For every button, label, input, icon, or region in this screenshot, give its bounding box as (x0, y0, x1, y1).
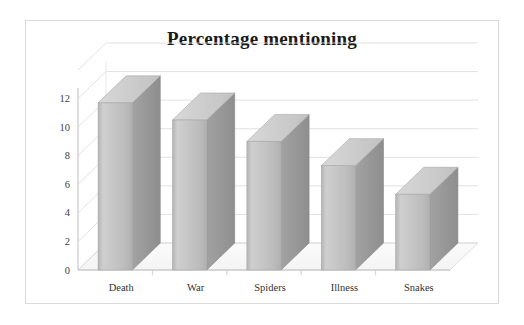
bar-front-face (98, 103, 132, 270)
x-category-label: Snakes (404, 282, 434, 293)
bar-front-face (247, 141, 281, 270)
y-tick-label: 4 (65, 207, 71, 218)
chart-x-tick-marks (152, 270, 375, 275)
x-category-label: Spiders (254, 282, 286, 293)
bar-death[interactable] (98, 76, 160, 270)
bar-front-face (321, 166, 355, 270)
bar-front-face (396, 194, 430, 270)
y-tick-label: 6 (65, 179, 70, 190)
bar-war[interactable] (172, 93, 234, 270)
depth-connector (78, 72, 106, 99)
chart-y-tick-labels: 121086420 (60, 93, 71, 275)
y-tick-label: 10 (60, 122, 71, 133)
x-category-label: Illness (331, 282, 358, 293)
chart-bars-group (98, 76, 458, 270)
chart-x-category-labels: SnakesIllnessSpidersWarDeath (109, 282, 434, 293)
chart-container: Percentage mentioning (0, 0, 524, 325)
depth-connector (78, 43, 106, 70)
chart-plot-area: 121086420 SnakesIllnessSpidersWarDeath (0, 0, 524, 325)
y-tick-label: 2 (65, 236, 70, 247)
bar-spiders[interactable] (247, 114, 309, 270)
y-tick-label: 0 (65, 265, 70, 276)
x-category-label: War (187, 282, 205, 293)
bar-illness[interactable] (321, 139, 383, 270)
bar-front-face (172, 120, 206, 270)
x-category-label: Death (109, 282, 135, 293)
bar-side-face (132, 76, 160, 270)
bar-side-face (207, 93, 235, 270)
y-tick-label: 12 (60, 93, 71, 104)
y-tick-label: 8 (65, 150, 70, 161)
